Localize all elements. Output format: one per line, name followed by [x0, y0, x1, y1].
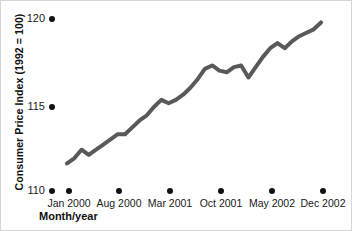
y-tick-label-115: 115	[15, 100, 45, 112]
y-tick-label-120: 120	[15, 12, 45, 24]
y-tick-dot-115	[49, 104, 55, 110]
x-tick-dot-oct-2001	[218, 188, 224, 194]
chart-figure: Consumer Price Index (1992 = 100) 120 11…	[0, 0, 352, 231]
y-tick-dot-120	[49, 16, 55, 22]
x-tick-dot-aug-2000	[116, 188, 122, 194]
x-tick-dot-may-2002	[269, 188, 275, 194]
x-tick-label-oct-2001: Oct 2001	[200, 197, 243, 209]
x-tick-dot-dec-2002	[320, 188, 326, 194]
x-axis-title: Month/year	[39, 210, 98, 222]
cpi-line-series	[67, 22, 321, 163]
x-tick-dot-jan-2000	[66, 188, 72, 194]
x-tick-label-dec-2002: Dec 2002	[301, 197, 346, 209]
x-tick-label-mar-2001: Mar 2001	[148, 197, 192, 209]
y-tick-label-110: 110	[15, 184, 45, 196]
x-tick-label-may-2002: May 2002	[249, 197, 295, 209]
y-tick-dot-110	[49, 188, 55, 194]
x-tick-label-jan-2000: Jan 2000	[47, 197, 90, 209]
x-tick-dot-mar-2001	[167, 188, 173, 194]
x-tick-label-aug-2000: Aug 2000	[97, 197, 142, 209]
